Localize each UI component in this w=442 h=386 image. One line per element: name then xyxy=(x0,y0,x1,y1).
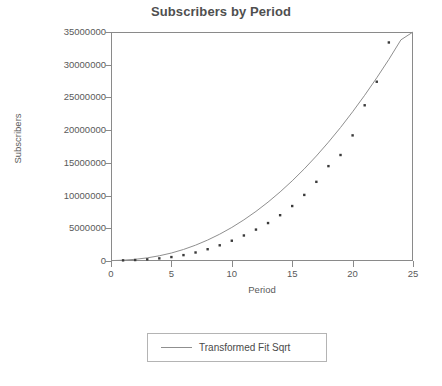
data-point xyxy=(255,228,257,230)
y-axis-tick-label: 0 xyxy=(10,255,106,266)
data-point xyxy=(158,257,160,259)
y-axis-tick-label: 15000000 xyxy=(10,157,106,168)
chart-legend: Transformed Fit Sqrt xyxy=(147,333,327,362)
y-axis-title: Subscribers xyxy=(12,84,23,194)
data-point xyxy=(146,258,148,260)
legend-item-label: Transformed Fit Sqrt xyxy=(199,342,290,353)
x-axis-tick-mark xyxy=(171,261,172,267)
y-axis-tick-label: 35000000 xyxy=(10,26,106,37)
x-axis-tick-label: 5 xyxy=(151,268,191,279)
x-axis-tick-label: 25 xyxy=(393,268,433,279)
data-point xyxy=(327,165,329,167)
subscribers-data-points xyxy=(122,41,390,261)
plot-area xyxy=(111,32,413,261)
x-axis-tick-label: 0 xyxy=(91,268,131,279)
y-axis-tick-label: 30000000 xyxy=(10,59,106,70)
x-axis-tick-mark xyxy=(111,261,112,267)
y-axis-tick-label: 20000000 xyxy=(10,124,106,135)
x-axis-tick-mark xyxy=(292,261,293,267)
x-axis-tick-label: 20 xyxy=(333,268,373,279)
data-point xyxy=(279,214,281,216)
x-axis-tick-label: 10 xyxy=(212,268,252,279)
data-point xyxy=(170,256,172,258)
data-point xyxy=(206,248,208,250)
legend-item-transformed-fit-sqrt: Transformed Fit Sqrt xyxy=(148,342,290,353)
y-axis-tick-label: 10000000 xyxy=(10,190,106,201)
x-axis-tick-mark xyxy=(413,261,414,267)
data-point xyxy=(363,104,365,106)
x-axis-tick-mark xyxy=(232,261,233,267)
y-axis-tick-label: 5000000 xyxy=(10,222,106,233)
data-point xyxy=(376,81,378,83)
data-point xyxy=(122,259,124,261)
y-axis-tick-label: 25000000 xyxy=(10,91,106,102)
x-axis-tick-mark xyxy=(353,261,354,267)
data-point xyxy=(134,259,136,261)
x-axis-title: Period xyxy=(111,284,413,295)
data-point xyxy=(231,240,233,242)
data-point xyxy=(219,244,221,246)
data-point xyxy=(315,181,317,183)
legend-line-swatch-icon xyxy=(161,347,192,348)
chart-container: Subscribers by Period 050000001000000015… xyxy=(0,0,442,386)
data-point xyxy=(267,222,269,224)
data-point xyxy=(388,41,390,43)
data-point xyxy=(291,205,293,207)
data-point xyxy=(303,194,305,196)
transformed-fit-sqrt-line xyxy=(111,32,413,261)
data-point xyxy=(351,134,353,136)
data-point xyxy=(243,234,245,236)
data-point xyxy=(339,154,341,156)
data-point xyxy=(182,254,184,256)
x-axis-tick-label: 15 xyxy=(272,268,312,279)
data-point xyxy=(194,251,196,253)
